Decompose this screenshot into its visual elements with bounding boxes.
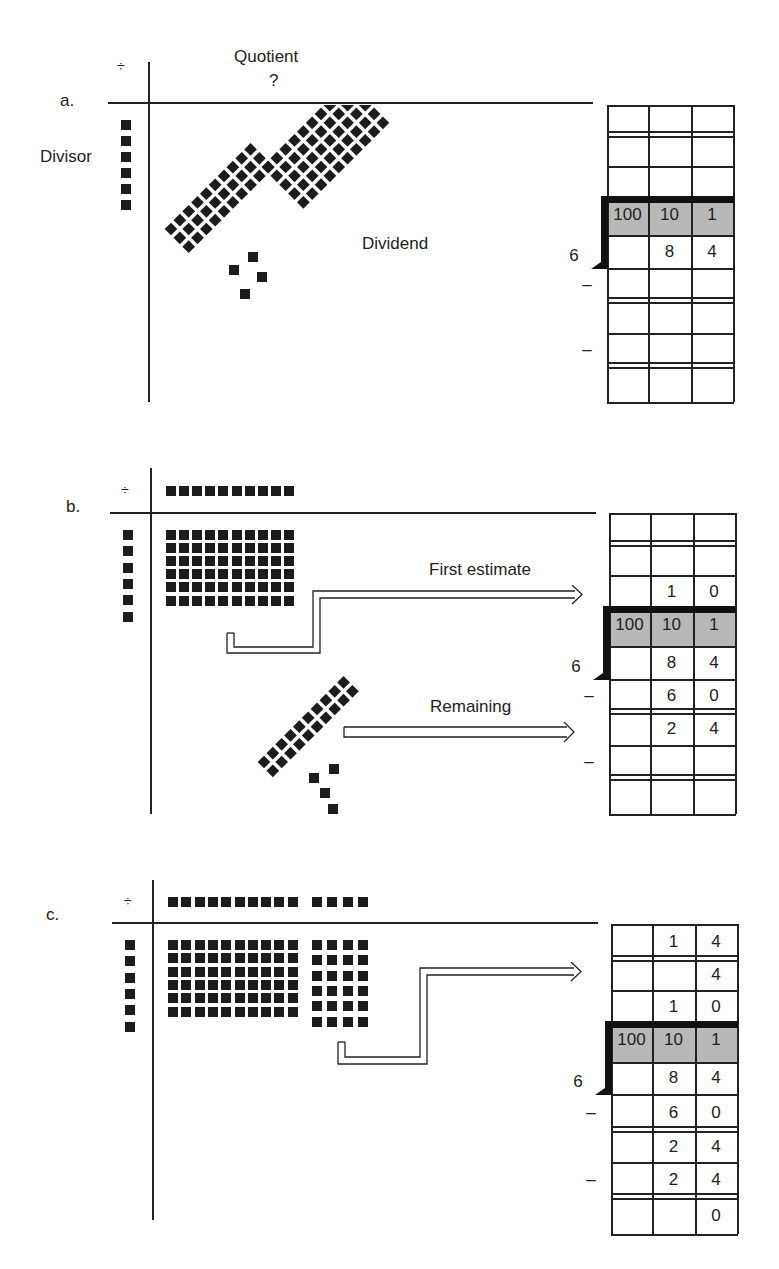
horizontal-axis: [110, 512, 596, 514]
minus-sign: –: [584, 1170, 598, 1190]
grid-cell: 8: [652, 1068, 695, 1088]
place-value-header: 1: [693, 615, 735, 635]
grid-cell: 4: [695, 932, 737, 952]
long-division-diagram: a. ÷ Quotient ? Divisor Dividend 1001018…: [0, 0, 779, 1269]
place-value-header: 100: [611, 1030, 652, 1050]
panel-label: b.: [66, 497, 80, 517]
minus-sign: –: [580, 340, 594, 360]
grid-cell: 0: [695, 1103, 737, 1123]
grid-cell: 0: [695, 1206, 737, 1226]
grid-cell: 0: [693, 686, 735, 706]
divide-sign: ÷: [124, 893, 132, 909]
first-estimate-label: First estimate: [429, 560, 531, 580]
grid-cell: 4: [695, 965, 737, 985]
divisor-label: Divisor: [40, 147, 92, 167]
place-value-header: 100: [609, 615, 650, 635]
grid-cell: 4: [693, 719, 735, 739]
minus-sign: –: [582, 686, 596, 706]
dividend-tens-blocks: [150, 105, 410, 255]
place-value-header: 10: [652, 1030, 695, 1050]
minus-sign: –: [580, 275, 594, 295]
remaining-label: Remaining: [430, 697, 511, 717]
panel-label: a.: [60, 91, 74, 111]
grid-cell: 0: [693, 582, 735, 602]
quotient-value: ?: [269, 71, 278, 91]
vertical-axis: [152, 880, 154, 1220]
grid-cell: 1: [650, 582, 693, 602]
divisor-value: 6: [568, 657, 584, 677]
grid-cell: 4: [695, 1137, 737, 1157]
horizontal-axis: [112, 922, 598, 924]
grid-cell: 0: [695, 997, 737, 1017]
divisor-value: 6: [570, 1072, 586, 1092]
dividend-label: Dividend: [362, 234, 428, 254]
grid-cell: 6: [652, 1103, 695, 1123]
place-value-header: 1: [695, 1030, 737, 1050]
grid-cell: 8: [650, 653, 693, 673]
grid-cell: 8: [648, 242, 691, 262]
horizontal-axis: [108, 102, 593, 104]
remaining-arrow: [342, 722, 600, 746]
quotient-arrow: [334, 962, 600, 1067]
grid-cell: 2: [650, 719, 693, 739]
place-value-header: 10: [650, 615, 693, 635]
grid-cell: 4: [695, 1068, 737, 1088]
grid-cell: 4: [695, 1170, 737, 1190]
grid-cell: 6: [650, 686, 693, 706]
divide-sign: ÷: [121, 482, 129, 498]
grid-cell: 2: [652, 1137, 695, 1157]
minus-sign: –: [582, 752, 596, 772]
place-value-header: 10: [648, 205, 691, 225]
grid-cell: 4: [691, 242, 733, 262]
grid-cell: 1: [652, 932, 695, 952]
place-value-header: 100: [607, 205, 648, 225]
minus-sign: –: [584, 1103, 598, 1123]
divisor-value: 6: [566, 246, 582, 266]
place-value-header: 1: [691, 205, 733, 225]
quotient-label: Quotient: [234, 47, 298, 67]
vertical-axis: [150, 468, 152, 814]
grid-cell: 1: [652, 997, 695, 1017]
grid-cell: 4: [693, 653, 735, 673]
divide-sign: ÷: [117, 58, 125, 74]
grid-cell: 2: [652, 1170, 695, 1190]
panel-label: c.: [46, 905, 59, 925]
first-estimate-arrow: [220, 585, 600, 660]
